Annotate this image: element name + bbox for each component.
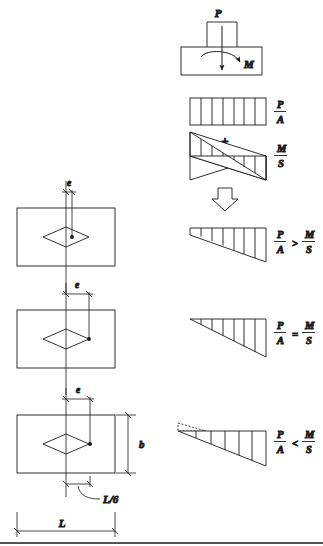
ecc-label-1: e (67, 178, 72, 188)
dimension-b (116, 412, 136, 476)
footing-pressure-figure: P M P A + M S (0, 0, 323, 546)
moment-arrow (201, 52, 240, 62)
stress-block-case-3 (178, 423, 266, 466)
svg-text:M: M (304, 429, 315, 440)
stress-block-case-2 (190, 319, 266, 357)
svg-text:M: M (276, 143, 287, 154)
ecc-label-3: e (76, 385, 81, 395)
svg-text:P: P (277, 429, 284, 440)
ecc-label-2: e (75, 280, 80, 290)
dimension-L (14, 512, 118, 537)
svg-text:A: A (276, 444, 284, 455)
stress-block-uniform (190, 98, 266, 125)
uplift-dashed-wedge (178, 423, 206, 431)
svg-text:S: S (306, 244, 312, 255)
label-case-2: P A = M S (274, 320, 315, 346)
svg-text:>: > (292, 237, 298, 249)
footing-plan-2 (17, 283, 115, 395)
moment-label-M: M (243, 58, 255, 70)
svg-text:S: S (306, 444, 312, 455)
dim-label-kern: L/6 (102, 493, 119, 505)
svg-text:M: M (304, 229, 315, 240)
load-label-P: P (215, 7, 222, 19)
label-case-3: P A < M S (274, 429, 315, 455)
svg-text:<: < (292, 437, 298, 449)
footing-plan-3 (17, 388, 115, 497)
svg-text:A: A (276, 114, 284, 125)
svg-text:S: S (278, 158, 284, 169)
svg-text:=: = (292, 328, 298, 340)
dim-label-L: L (58, 517, 66, 529)
svg-text:A: A (276, 244, 284, 255)
block-arrow-down-icon (212, 188, 238, 211)
svg-text:S: S (306, 335, 312, 346)
svg-text:P: P (277, 320, 284, 331)
label-P-over-A-1: P A (274, 99, 286, 125)
load-point-3 (88, 442, 92, 446)
label-M-over-S-1: M S (274, 143, 287, 169)
stress-block-case-1 (190, 228, 266, 262)
load-point-1 (70, 235, 74, 239)
svg-text:P: P (277, 229, 284, 240)
svg-text:P: P (277, 99, 284, 110)
load-point-2 (87, 337, 91, 341)
footing-plan-1 (17, 181, 115, 293)
svg-text:M: M (304, 320, 315, 331)
dim-label-b: b (139, 438, 145, 450)
dimension-kern (63, 476, 100, 499)
svg-text:A: A (276, 335, 284, 346)
label-case-1: P A > M S (274, 229, 315, 255)
